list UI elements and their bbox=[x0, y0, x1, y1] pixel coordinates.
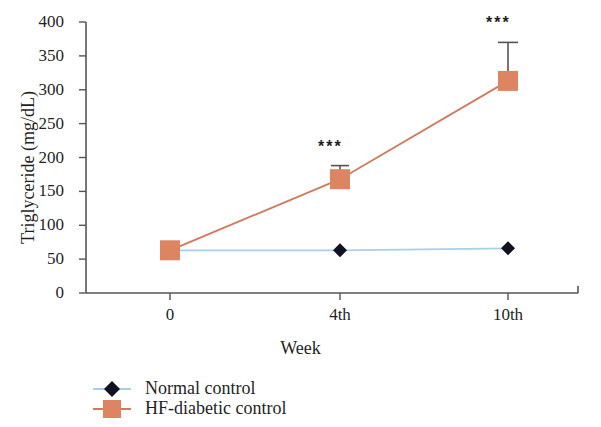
y-axis-title: Triglyceride (mg/dL) bbox=[18, 48, 39, 288]
series-normal-control bbox=[163, 241, 515, 257]
chart-figure: 400 350 300 250 200 150 100 50 0 0 4th 1… bbox=[0, 0, 601, 427]
x-axis-ticks bbox=[170, 293, 508, 300]
marker-square-week10 bbox=[498, 71, 518, 91]
error-bars bbox=[331, 42, 518, 179]
marker-square-week0 bbox=[160, 240, 180, 260]
axis-lines bbox=[86, 22, 578, 293]
legend-item-hf-diabetic-control-label: HF-diabetic control bbox=[145, 398, 286, 419]
x-axis-title: Week bbox=[0, 338, 601, 359]
legend-item-normal-control-label: Normal control bbox=[145, 378, 255, 399]
marker-square-week4 bbox=[330, 169, 350, 189]
marker-diamond-week10 bbox=[501, 241, 515, 255]
x-tick-label-week0: 0 bbox=[140, 305, 200, 325]
y-axis-ticks bbox=[79, 22, 86, 293]
legend-marker-square bbox=[103, 400, 121, 418]
legend-markers bbox=[93, 381, 131, 418]
marker-diamond-week4 bbox=[333, 243, 347, 257]
legend-marker-diamond bbox=[104, 381, 120, 397]
chart-plot-area bbox=[0, 0, 601, 427]
y-tick-label-400: 400 bbox=[8, 12, 64, 32]
x-tick-label-week10: 10th bbox=[478, 305, 538, 325]
x-tick-label-week4: 4th bbox=[310, 305, 370, 325]
significance-annotation-week10: *** bbox=[486, 14, 511, 32]
significance-annotation-week4: *** bbox=[318, 138, 343, 156]
